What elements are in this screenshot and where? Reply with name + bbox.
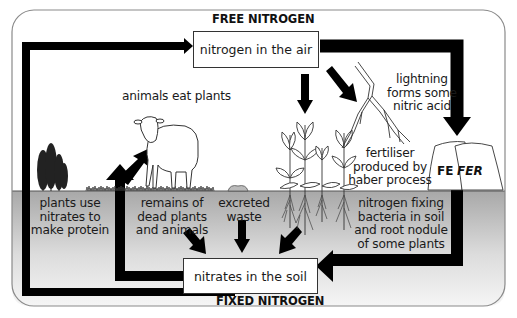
remains-line-3: and animals	[134, 224, 210, 238]
lightning-line-2: forms some	[382, 87, 462, 101]
free-nitrogen-heading: FREE NITROGEN	[212, 12, 314, 26]
nitrogen-in-air-node: nitrogen in the air	[193, 31, 319, 68]
plants-use-line-3: make protein	[30, 224, 110, 238]
arrowhead-to-air	[184, 38, 193, 54]
lightning-line-1: lightning	[382, 73, 462, 87]
fixing-line-4: of some plants	[352, 238, 450, 252]
remains-line-2: dead plants	[134, 211, 210, 225]
plants-use-line-2: nitrates to	[30, 211, 110, 225]
nitrogen-fixing-label: nitrogen fixing bacteria in soil and roo…	[352, 197, 450, 251]
excreted-line-2: waste	[216, 211, 272, 225]
arrow-air-to-lightning	[326, 66, 357, 102]
lightning-label: lightning forms some nitric acid	[382, 73, 462, 114]
fertiliser-label: fertiliser produced by haber process	[348, 147, 432, 188]
nitrates-in-soil-label: nitrates in the soil	[194, 269, 307, 284]
waste-illustration	[228, 186, 248, 191]
arrow-air-to-plants-shaft	[301, 74, 309, 102]
fixing-line-3: and root nodule	[352, 224, 450, 238]
plants-use-line-1: plants use	[30, 197, 110, 211]
arrowhead-fertiliser	[443, 117, 471, 136]
remains-line-1: remains of	[134, 197, 210, 211]
fertiliser-line-3: haber process	[348, 174, 432, 188]
nitrogen-in-air-label: nitrogen in the air	[200, 42, 312, 57]
fixed-nitrogen-heading: FIXED NITROGEN	[216, 294, 324, 308]
bag-label-1: FE	[437, 164, 453, 178]
animals-eat-plants-label: animals eat plants	[122, 90, 231, 104]
bag-label-2: FER	[457, 164, 483, 178]
fixing-line-1: nitrogen fixing	[352, 197, 450, 211]
lightning-line-3: nitric acid	[382, 100, 462, 114]
arrowhead-air-plants	[297, 100, 313, 114]
fertiliser-line-1: fertiliser	[348, 147, 432, 161]
remains-label: remains of dead plants and animals	[134, 197, 210, 238]
fertiliser-line-2: produced by	[348, 161, 432, 175]
grass-illustration	[86, 186, 214, 191]
arrow-plants-to-animals	[118, 148, 150, 185]
plants-use-nitrates-label: plants use nitrates to make protein	[30, 197, 110, 238]
nitrates-in-soil-node: nitrates in the soil	[183, 258, 318, 294]
nitrogen-cycle-diagram: FREE NITROGEN FIXED NITROGEN nitrogen in…	[0, 0, 517, 318]
excreted-line-1: excreted	[216, 197, 272, 211]
trees-illustration	[37, 143, 68, 191]
excreted-waste-label: excreted waste	[216, 197, 272, 224]
fixing-line-2: bacteria in soil	[352, 211, 450, 225]
